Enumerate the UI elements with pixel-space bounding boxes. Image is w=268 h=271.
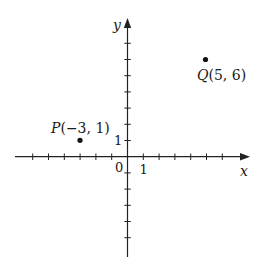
point-p-label: P(−3, 1) bbox=[50, 120, 110, 136]
point-q-label: Q(5, 6) bbox=[197, 67, 246, 83]
y-unit-label: 1 bbox=[114, 133, 122, 148]
point-q-marker bbox=[203, 57, 208, 62]
x-unit-label: 1 bbox=[140, 162, 148, 177]
y-axis-arrow-icon bbox=[124, 18, 131, 28]
y-axis-label: y bbox=[112, 17, 122, 33]
x-axis-label: x bbox=[240, 163, 248, 179]
coordinate-plane: x y 0 1 1 P(−3, 1) Q(5, 6) bbox=[0, 0, 268, 271]
x-axis-arrow-icon bbox=[240, 153, 250, 160]
origin-label: 0 bbox=[115, 160, 123, 175]
point-p-marker bbox=[77, 138, 82, 143]
